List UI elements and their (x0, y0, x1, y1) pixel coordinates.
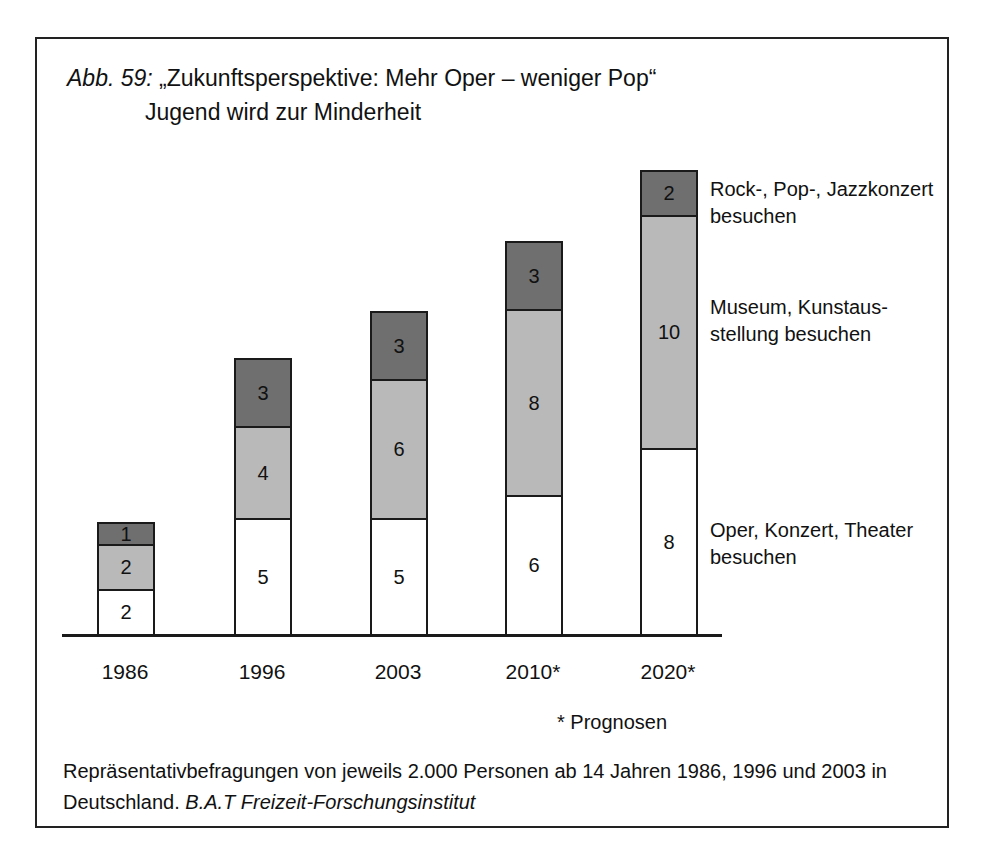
axis-tick-1996-left (234, 616, 236, 634)
legend-label-museum: Museum, Kunstaus-stellung besuchen (710, 294, 945, 348)
segment-rock-2010[interactable]: 3 (505, 241, 563, 311)
axis-tick-1986-right (153, 616, 155, 634)
segment-museum-2010[interactable]: 8 (505, 309, 563, 497)
source-institute: B.A.T Freizeit-Forschungsinstitut (185, 791, 475, 813)
axis-tick-2010-left (505, 616, 507, 634)
segment-rock-1996[interactable]: 3 (234, 358, 292, 428)
legend-label-rock: Rock-, Pop-, Jazzkonzert besuchen (710, 176, 945, 230)
segment-museum-2003[interactable]: 6 (370, 379, 428, 520)
segment-rock-1986[interactable]: 1 (97, 522, 155, 546)
legend-label-oper: Oper, Konzert, Theater besuchen (710, 517, 945, 571)
axis-tick-2020-left (640, 616, 642, 634)
source-country: Deutschland. (63, 791, 185, 813)
source-line-1: Repräsentativbefragungen von jeweils 2.0… (63, 756, 933, 787)
x-axis-label-2010: 2010* (473, 660, 593, 684)
segment-oper-1996[interactable]: 5 (234, 518, 292, 636)
axis-tick-2020-right (696, 616, 698, 634)
prognosen-footnote: * Prognosen (557, 711, 667, 734)
chart-plot-area: 1 2 2 3 4 5 3 6 5 3 8 (37, 39, 951, 830)
segment-oper-1986[interactable]: 2 (97, 589, 155, 636)
segment-museum-1986[interactable]: 2 (97, 544, 155, 591)
segment-oper-2003[interactable]: 5 (370, 518, 428, 636)
bar-stack-1996: 3 4 5 (234, 358, 292, 634)
segment-museum-1996[interactable]: 4 (234, 426, 292, 520)
x-axis-label-2003: 2003 (338, 660, 458, 684)
axis-tick-2003-left (370, 616, 372, 634)
axis-tick-1986-left (97, 616, 99, 634)
x-axis-label-1996: 1996 (202, 660, 322, 684)
x-axis-label-1986: 1986 (65, 660, 185, 684)
source-line-2: Deutschland. B.A.T Freizeit-Forschungsin… (63, 787, 933, 818)
x-axis-label-2020: 2020* (608, 660, 728, 684)
axis-tick-2003-right (426, 616, 428, 634)
bar-stack-2020: 2 10 8 (640, 170, 698, 634)
segment-oper-2020[interactable]: 8 (640, 448, 698, 636)
source-note: Repräsentativbefragungen von jeweils 2.0… (63, 756, 933, 818)
segment-rock-2020[interactable]: 2 (640, 170, 698, 217)
segment-oper-2010[interactable]: 6 (505, 495, 563, 636)
figure-frame: Abb. 59: „Zukunftsperspektive: Mehr Oper… (35, 37, 949, 828)
bar-stack-2003: 3 6 5 (370, 311, 428, 634)
axis-tick-2010-right (561, 616, 563, 634)
bar-stack-1986: 1 2 2 (97, 522, 155, 634)
bar-stack-2010: 3 8 6 (505, 241, 563, 634)
segment-museum-2020[interactable]: 10 (640, 215, 698, 450)
segment-rock-2003[interactable]: 3 (370, 311, 428, 381)
axis-tick-1996-right (290, 616, 292, 634)
